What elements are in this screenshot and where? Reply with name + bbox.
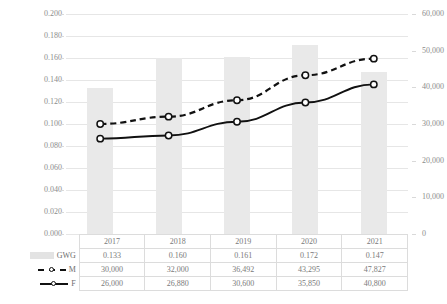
- left-axis-tick-mark: [60, 58, 64, 59]
- right-axis-tick-mark: [412, 234, 416, 235]
- table-cell-GWG-2017: 0.133: [79, 249, 145, 263]
- left-axis-tick-label: 0.200: [4, 10, 62, 18]
- right-axis-tick-label: 20,000: [422, 157, 447, 165]
- legend-dashed-line-icon: [38, 265, 66, 274]
- marker-M-2021: [371, 55, 377, 61]
- table-cell-F-2018: 26,880: [145, 277, 211, 291]
- right-value-axis: 010,00020,00030,00040,00050,00060,000: [412, 0, 447, 248]
- right-axis-tick-label: 10,000: [422, 193, 447, 201]
- right-axis-tick-label: 40,000: [422, 83, 447, 91]
- marker-M-2019: [234, 97, 240, 103]
- marker-F-2018: [165, 132, 171, 138]
- table-column-header-2020: 2020: [276, 235, 342, 249]
- left-axis-tick-label: 0.120: [4, 98, 62, 106]
- left-axis-tick-mark: [60, 190, 64, 191]
- right-axis-tick-mark: [412, 197, 416, 198]
- legend-wrap: M: [22, 263, 76, 276]
- table-row: F26,00026,88030,60035,85040,800: [22, 277, 408, 291]
- marker-F-2017: [97, 135, 103, 141]
- right-axis-tick-mark: [412, 161, 416, 162]
- left-axis-tick-mark: [60, 124, 64, 125]
- left-axis-tick-label: 0.040: [4, 186, 62, 194]
- marker-M-2017: [97, 121, 103, 127]
- legend-solid-line-icon: [40, 279, 68, 288]
- legend-bar-swatch-icon: [30, 252, 54, 259]
- right-axis-tick-label: 50,000: [422, 47, 447, 55]
- legend-circle-marker-icon: [49, 267, 54, 272]
- legend-row-GWG: GWG: [22, 249, 79, 263]
- legend-wrap: F: [22, 277, 76, 290]
- table-column-header-2021: 2021: [342, 235, 408, 249]
- table-corner-cell: [22, 235, 79, 249]
- right-axis-tick-mark: [412, 87, 416, 88]
- left-axis-tick-label: 0.080: [4, 142, 62, 150]
- right-axis-tick-label: 0: [422, 230, 447, 238]
- left-axis-tick-label: 0.020: [4, 208, 62, 216]
- marker-F-2019: [234, 119, 240, 125]
- left-axis-tick-label: 0.180: [4, 32, 62, 40]
- table-cell-F-2020: 35,850: [276, 277, 342, 291]
- table-column-header-2017: 2017: [79, 235, 145, 249]
- table-cell-F-2021: 40,800: [342, 277, 408, 291]
- line-series-group: [66, 14, 408, 234]
- table-column-header-2018: 2018: [145, 235, 211, 249]
- left-axis-tick-label: 0.060: [4, 164, 62, 172]
- table-cell-M-2019: 36,492: [211, 263, 277, 277]
- table-column-header-2019: 2019: [211, 235, 277, 249]
- left-axis-tick-mark: [60, 212, 64, 213]
- chart-container: 0.0000.0200.0400.0600.0800.1000.1200.140…: [0, 0, 447, 304]
- marker-M-2020: [302, 72, 308, 78]
- right-axis-tick-mark: [412, 14, 416, 15]
- legend-label-M: M: [69, 265, 76, 274]
- data-table: 20172018201920202021GWG0.1330.1600.1610.…: [22, 234, 408, 291]
- left-axis-tick-mark: [60, 36, 64, 37]
- legend-row-M: M: [22, 263, 79, 277]
- left-axis-tick-mark: [60, 168, 64, 169]
- table-cell-GWG-2020: 0.172: [276, 249, 342, 263]
- left-axis-tick-label: 0.100: [4, 120, 62, 128]
- left-axis-tick-mark: [60, 146, 64, 147]
- table-row: M30,00032,00036,49243,29547,827: [22, 263, 408, 277]
- marker-M-2018: [165, 113, 171, 119]
- table-cell-F-2017: 26,000: [79, 277, 145, 291]
- table-cell-M-2018: 32,000: [145, 263, 211, 277]
- table-cell-M-2021: 47,827: [342, 263, 408, 277]
- line-M: [100, 59, 374, 124]
- marker-F-2021: [371, 81, 377, 87]
- left-axis-tick-mark: [60, 14, 64, 15]
- table-cell-GWG-2018: 0.160: [145, 249, 211, 263]
- left-value-axis: 0.0000.0200.0400.0600.0800.1000.1200.140…: [0, 0, 62, 248]
- legend-label-GWG: GWG: [57, 251, 76, 260]
- table-cell-GWG-2021: 0.147: [342, 249, 408, 263]
- table-cell-GWG-2019: 0.161: [211, 249, 277, 263]
- table-row: GWG0.1330.1600.1610.1720.147: [22, 249, 408, 263]
- plot-area: [66, 14, 408, 234]
- right-axis-tick-mark: [412, 124, 416, 125]
- legend-row-F: F: [22, 277, 79, 291]
- left-axis-tick-mark: [60, 80, 64, 81]
- table-cell-F-2019: 30,600: [211, 277, 277, 291]
- marker-F-2020: [302, 99, 308, 105]
- table-cell-M-2020: 43,295: [276, 263, 342, 277]
- line-F: [100, 84, 374, 138]
- legend-circle-marker-icon: [51, 281, 56, 286]
- left-axis-tick-mark: [60, 102, 64, 103]
- left-axis-tick-label: 0.160: [4, 54, 62, 62]
- left-axis-tick-label: 0.140: [4, 76, 62, 84]
- legend-label-F: F: [71, 279, 75, 288]
- table-header-row: 20172018201920202021: [22, 235, 408, 249]
- right-axis-tick-mark: [412, 51, 416, 52]
- legend-wrap: GWG: [22, 249, 76, 262]
- table-cell-M-2017: 30,000: [79, 263, 145, 277]
- right-axis-tick-label: 30,000: [422, 120, 447, 128]
- right-axis-tick-label: 60,000: [422, 10, 447, 18]
